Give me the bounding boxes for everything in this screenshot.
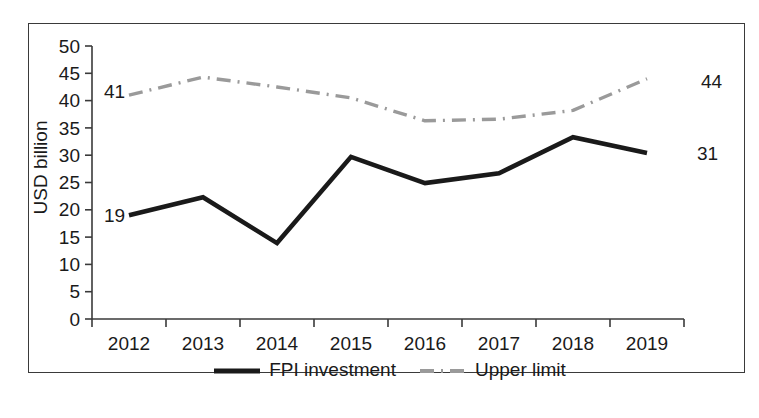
y-tick-label-15: 15 [46,228,80,247]
y-tick-label-25: 25 [46,173,80,192]
x-tick-label-2016: 2016 [388,334,462,353]
x-tick-label-2017: 2017 [462,334,536,353]
y-tick-label-20: 20 [46,200,80,219]
y-tick-label-0: 0 [46,310,80,329]
legend-item-upper-limit: Upper limit [420,360,566,379]
data-label-fpi-last: 31 [697,144,718,163]
x-tick-label-2019: 2019 [610,334,684,353]
legend-item-fpi-investment: FPI investment [214,360,396,379]
y-tick-label-45: 45 [46,64,80,83]
legend-label-fpi-investment: FPI investment [269,360,396,379]
data-label-limit-first: 41 [104,82,125,101]
x-tick-label-2014: 2014 [240,334,314,353]
chart-legend: FPI investment Upper limit [225,356,555,382]
y-tick-label-10: 10 [46,255,80,274]
data-label-limit-last: 44 [701,72,722,91]
data-label-fpi-first: 19 [104,206,125,225]
chart-outer-frame [28,23,745,373]
y-tick-label-50: 50 [46,37,80,56]
x-tick-label-2015: 2015 [314,334,388,353]
solid-line-swatch [214,363,260,375]
y-tick-label-5: 5 [46,282,80,301]
y-axis-title: USD billion [31,103,50,233]
x-tick-label-2012: 2012 [92,334,166,353]
legend-label-upper-limit: Upper limit [475,360,566,379]
chart-figure: 50 45 40 35 30 25 20 15 10 5 0 2012 2013… [0,0,759,418]
y-tick-label-35: 35 [46,119,80,138]
x-tick-label-2013: 2013 [166,334,240,353]
y-tick-label-30: 30 [46,146,80,165]
x-tick-label-2018: 2018 [536,334,610,353]
dash-dot-line-swatch [420,363,466,375]
y-tick-label-40: 40 [46,91,80,110]
